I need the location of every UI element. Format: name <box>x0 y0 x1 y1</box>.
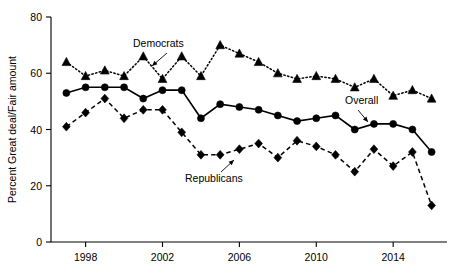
annotation-label: Republicans <box>185 172 243 184</box>
data-point-diamond <box>370 145 378 154</box>
data-point-diamond <box>428 201 436 210</box>
series-line-republicans <box>66 99 431 206</box>
annotation-overall: Overall <box>345 94 378 122</box>
y-tick-label: 20 <box>30 180 42 192</box>
line-chart: 02040608019982002200620102014 Percent Gr… <box>0 0 456 280</box>
data-point-triangle <box>197 71 206 79</box>
annotation-republicans: Republicans <box>185 160 243 184</box>
chart-series-group <box>62 41 436 210</box>
data-point-circle <box>101 84 108 91</box>
series-democrats <box>62 41 436 103</box>
data-point-circle <box>63 89 70 96</box>
data-point-diamond <box>409 148 417 157</box>
data-point-diamond <box>332 150 340 159</box>
annotation-label: Democrats <box>133 37 184 49</box>
data-point-circle <box>313 115 320 122</box>
data-point-circle <box>332 112 339 119</box>
data-point-circle <box>274 112 281 119</box>
data-point-circle <box>236 104 243 111</box>
data-point-triangle <box>370 74 379 82</box>
data-point-diamond <box>63 122 71 131</box>
data-point-diamond <box>82 108 90 117</box>
data-point-triangle <box>273 69 282 77</box>
data-point-diamond <box>351 167 359 176</box>
x-tick-label: 1998 <box>74 251 98 263</box>
data-point-circle <box>351 126 358 133</box>
annotation-label: Overall <box>345 94 378 106</box>
data-point-circle <box>409 126 416 133</box>
data-point-triangle <box>139 52 148 60</box>
data-point-triangle <box>312 71 321 79</box>
data-point-triangle <box>216 41 225 49</box>
x-tick-label: 2010 <box>305 251 329 263</box>
y-axis-title-group: Percent Great deal/Fair amount <box>6 56 18 203</box>
data-point-circle <box>159 87 166 94</box>
y-tick-label: 40 <box>30 124 42 136</box>
y-axis-title: Percent Great deal/Fair amount <box>6 56 18 203</box>
y-tick-label: 80 <box>30 11 42 23</box>
data-point-diamond <box>274 153 282 162</box>
chart-container: 02040608019982002200620102014 Percent Gr… <box>0 0 456 280</box>
series-line-democrats <box>66 45 431 98</box>
data-point-circle <box>255 106 262 113</box>
annotation-democrats: Democrats <box>133 37 184 66</box>
series-republicans <box>63 94 436 210</box>
data-point-circle <box>82 84 89 91</box>
y-tick-label: 60 <box>30 67 42 79</box>
data-point-diamond <box>216 150 224 159</box>
data-point-triangle <box>177 52 186 60</box>
data-point-circle <box>121 84 128 91</box>
data-point-circle <box>370 120 377 127</box>
data-point-circle <box>140 95 147 102</box>
axis-lines <box>51 17 447 242</box>
x-tick-label: 2014 <box>381 251 405 263</box>
data-point-circle <box>428 149 435 156</box>
data-point-diamond <box>236 145 244 154</box>
data-point-circle <box>390 120 397 127</box>
y-tick-label: 0 <box>36 236 42 248</box>
data-point-diamond <box>312 142 320 151</box>
data-point-triangle <box>408 86 417 94</box>
data-point-triangle <box>254 57 263 65</box>
data-point-circle <box>217 101 224 108</box>
data-point-diamond <box>101 94 109 103</box>
series-overall <box>63 84 435 156</box>
data-point-triangle <box>350 83 359 91</box>
data-point-circle <box>197 115 204 122</box>
data-point-circle <box>178 87 185 94</box>
data-point-triangle <box>62 57 71 65</box>
chart-axes: 02040608019982002200620102014 <box>30 11 447 263</box>
x-tick-label: 2006 <box>228 251 252 263</box>
data-point-circle <box>294 118 301 125</box>
data-point-triangle <box>100 66 109 74</box>
data-point-triangle <box>235 49 244 57</box>
x-tick-label: 2002 <box>151 251 175 263</box>
data-point-diamond <box>255 139 263 148</box>
data-point-triangle <box>427 94 436 102</box>
data-point-diamond <box>139 105 147 114</box>
